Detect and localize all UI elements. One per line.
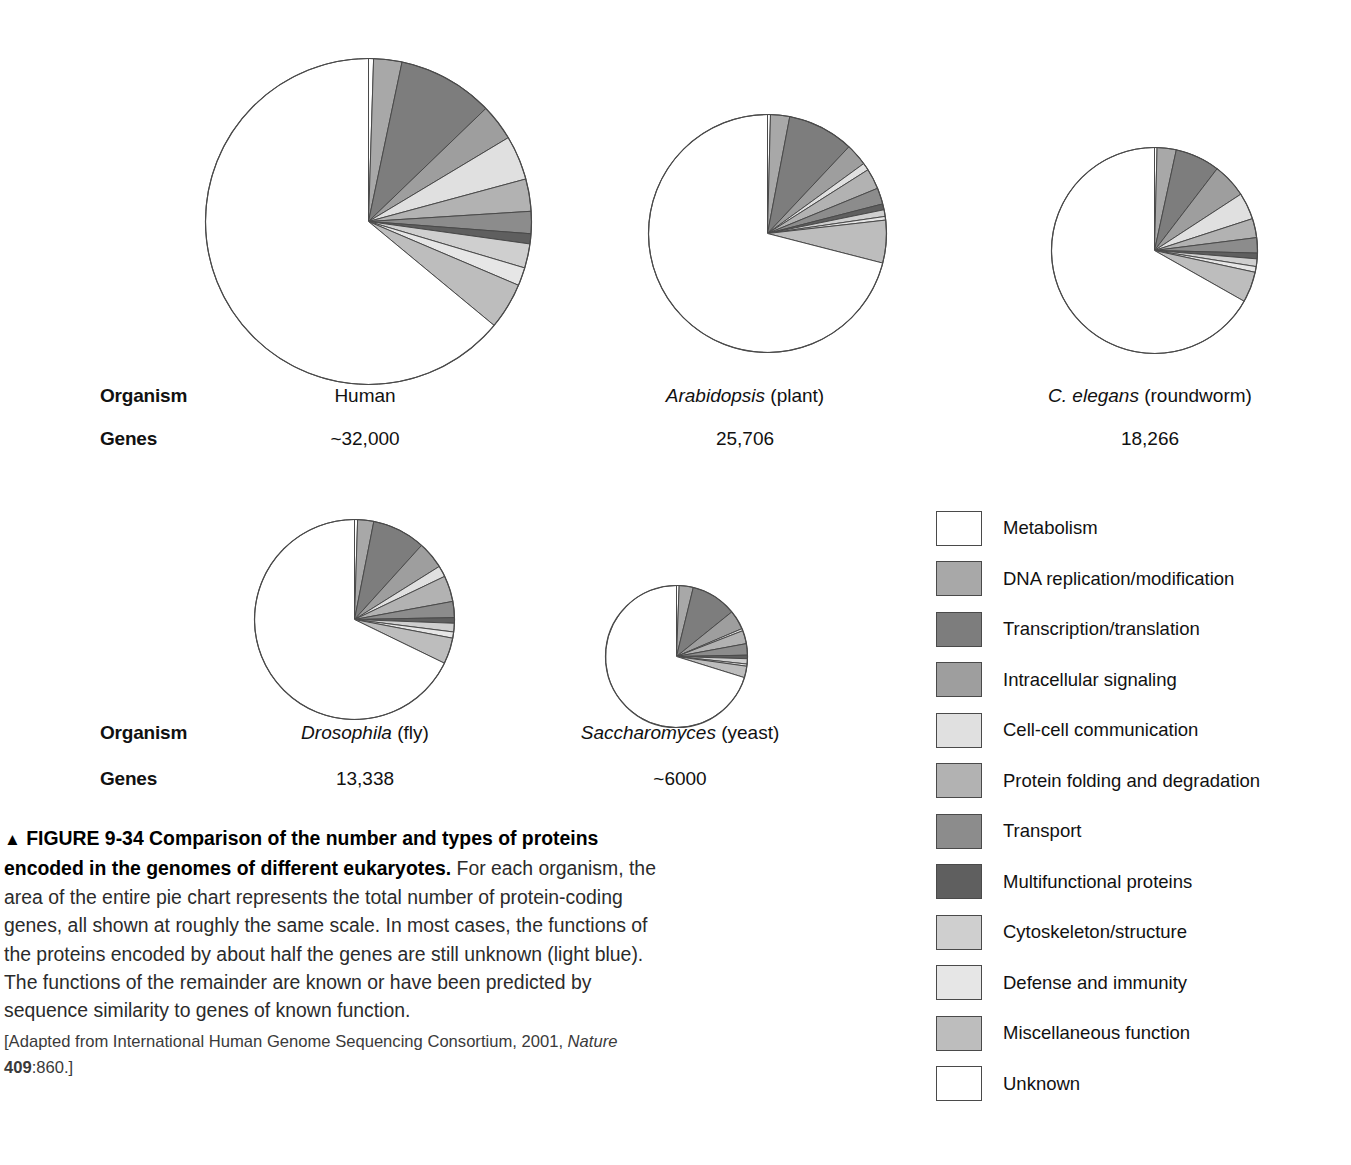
legend-item: Protein folding and degradation	[936, 756, 1346, 807]
organism-genes-yeast: ~6000	[530, 768, 830, 790]
figure-source: [Adapted from International Human Genome…	[4, 1029, 664, 1081]
organism-name-celegans-italic: C. elegans	[1048, 385, 1139, 406]
row-label-organism-top: Organism	[100, 385, 187, 407]
legend-label: Unknown	[1003, 1073, 1080, 1095]
chart-legend: MetabolismDNA replication/modificationTr…	[936, 503, 1346, 1109]
organism-genes-human: ~32,000	[265, 428, 465, 450]
legend-swatch	[936, 1066, 982, 1101]
legend-swatch	[936, 965, 982, 1000]
figure-source-suffix: :860.]	[32, 1058, 74, 1077]
legend-label: Multifunctional proteins	[1003, 871, 1192, 893]
organism-name-yeast: Saccharomyces (yeast)	[530, 722, 830, 744]
figure-source-prefix: [Adapted from International Human Genome…	[4, 1032, 568, 1051]
legend-swatch	[936, 561, 982, 596]
legend-swatch	[936, 612, 982, 647]
figure-source-volume: 409	[4, 1058, 32, 1077]
organism-name-celegans: C. elegans (roundworm)	[1005, 385, 1295, 407]
pie-svg-human	[204, 57, 533, 386]
legend-label: Intracellular signaling	[1003, 669, 1177, 691]
organism-name-drosophila-italic: Drosophila	[301, 722, 392, 743]
legend-swatch	[936, 1016, 982, 1051]
organism-genes-celegans: 18,266	[1005, 428, 1295, 450]
pie-svg-yeast	[604, 584, 749, 729]
pie-chart-drosophila	[253, 518, 456, 721]
figure-source-journal: Nature	[568, 1032, 618, 1051]
legend-label: Cell-cell communication	[1003, 719, 1198, 741]
organism-name-arabidopsis: Arabidopsis (plant)	[620, 385, 870, 407]
legend-swatch	[936, 864, 982, 899]
legend-item: DNA replication/modification	[936, 554, 1346, 605]
figure-marker-triangle-icon: ▲	[4, 830, 21, 849]
legend-item: Unknown	[936, 1059, 1346, 1110]
legend-item: Metabolism	[936, 503, 1346, 554]
pie-svg-arabidopsis	[647, 113, 888, 354]
organism-name-drosophila: Drosophila (fly)	[245, 722, 485, 744]
pie-svg-drosophila	[253, 518, 456, 721]
legend-label: DNA replication/modification	[1003, 568, 1234, 590]
row-label-organism-bottom: Organism	[100, 722, 187, 744]
organism-name-human: Human	[265, 385, 465, 407]
pie-svg-celegans	[1050, 146, 1259, 355]
legend-swatch	[936, 915, 982, 950]
legend-item: Defense and immunity	[936, 958, 1346, 1009]
legend-label: Transport	[1003, 820, 1081, 842]
legend-item: Miscellaneous function	[936, 1008, 1346, 1059]
legend-item: Transcription/translation	[936, 604, 1346, 655]
legend-label: Defense and immunity	[1003, 972, 1187, 994]
figure-caption: ▲ FIGURE 9-34 Comparison of the number a…	[4, 824, 664, 1081]
legend-item: Transport	[936, 806, 1346, 857]
figure-number: FIGURE 9-34	[26, 827, 143, 849]
organism-name-yeast-suffix: (yeast)	[716, 722, 779, 743]
legend-item: Intracellular signaling	[936, 655, 1346, 706]
row-label-genes-top: Genes	[100, 428, 157, 450]
legend-label: Metabolism	[1003, 517, 1098, 539]
legend-item: Multifunctional proteins	[936, 857, 1346, 908]
organism-name-drosophila-suffix: (fly)	[392, 722, 429, 743]
legend-swatch	[936, 763, 982, 798]
pie-chart-celegans	[1050, 146, 1259, 355]
organism-genes-arabidopsis: 25,706	[620, 428, 870, 450]
legend-swatch	[936, 511, 982, 546]
pie-chart-yeast	[604, 584, 749, 729]
organism-name-celegans-suffix: (roundworm)	[1139, 385, 1252, 406]
organism-name-arabidopsis-italic: Arabidopsis	[666, 385, 765, 406]
legend-item: Cell-cell communication	[936, 705, 1346, 756]
legend-label: Miscellaneous function	[1003, 1022, 1190, 1044]
organism-genes-drosophila: 13,338	[245, 768, 485, 790]
pie-chart-human	[204, 57, 533, 386]
legend-label: Protein folding and degradation	[1003, 770, 1260, 792]
organism-name-human-text: Human	[334, 385, 395, 406]
organism-name-yeast-italic: Saccharomyces	[581, 722, 716, 743]
legend-swatch	[936, 814, 982, 849]
legend-label: Cytoskeleton/structure	[1003, 921, 1187, 943]
row-label-genes-bottom: Genes	[100, 768, 157, 790]
legend-swatch	[936, 662, 982, 697]
legend-label: Transcription/translation	[1003, 618, 1200, 640]
legend-swatch	[936, 713, 982, 748]
figure-body: For each organism, the area of the entir…	[4, 857, 656, 1021]
legend-item: Cytoskeleton/structure	[936, 907, 1346, 958]
pie-chart-arabidopsis	[647, 113, 888, 354]
organism-name-arabidopsis-suffix: (plant)	[765, 385, 824, 406]
